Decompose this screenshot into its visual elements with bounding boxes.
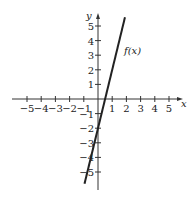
x-tick-label: 5 <box>166 103 172 114</box>
x-axis-label: x <box>181 98 187 109</box>
y-tick-label: 2 <box>88 65 94 76</box>
function-label: f(x) <box>123 45 141 56</box>
y-tick-label: 1 <box>88 79 94 90</box>
graph: −5−4−3−2−112345 54321−1−2−3−4−5 x y f(x) <box>0 0 194 197</box>
x-tick-label: −2 <box>62 103 77 114</box>
y-tick-label: 5 <box>88 21 94 32</box>
x-tick-label: 1 <box>109 103 115 114</box>
x-tick-label: 2 <box>123 103 129 114</box>
x-tick-label: −5 <box>20 103 35 114</box>
y-axis-arrow-icon <box>96 13 100 19</box>
x-tick-label: −3 <box>48 103 63 114</box>
y-tick-label: 3 <box>88 50 94 61</box>
y-axis-label: y <box>85 10 92 21</box>
x-tick-label: 3 <box>137 103 143 114</box>
y-tick-label: −3 <box>79 138 94 149</box>
x-tick-label: −4 <box>34 103 49 114</box>
x-tick-label: 4 <box>152 103 158 114</box>
y-tick-label: 4 <box>88 36 94 47</box>
y-tick-label: −2 <box>79 123 94 134</box>
y-tick-label: −1 <box>79 109 94 120</box>
